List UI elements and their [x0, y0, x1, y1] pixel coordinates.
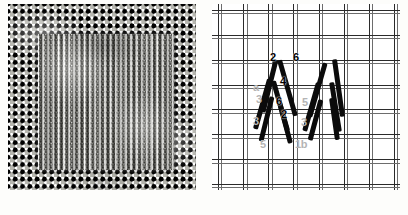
stitch-number-label: a: [253, 82, 259, 93]
stitch-working-diagram: 26462a335351b: [212, 4, 400, 190]
grid-thread-horizontal: [212, 134, 400, 135]
grid-thread-horizontal: [212, 109, 400, 110]
stitch-number-label: 3: [256, 94, 262, 105]
stitch-number-label: 5: [302, 97, 308, 108]
stitch-number-label: 6: [276, 96, 282, 107]
grid-thread-horizontal: [212, 63, 400, 64]
embroidered-canvas-photograph: [8, 4, 196, 190]
stitch-number-label: 3: [253, 116, 259, 127]
grid-thread-horizontal: [212, 35, 400, 36]
grid-thread-horizontal: [212, 88, 400, 89]
stitch-number-label: 3: [301, 117, 307, 128]
grid-thread-horizontal: [212, 85, 400, 86]
grid-thread-horizontal: [212, 187, 400, 188]
grid-thread-horizontal: [212, 163, 400, 164]
worked-block-shading: [38, 34, 174, 170]
stitch-number-label: 4: [280, 76, 286, 87]
grid-thread-horizontal: [212, 184, 400, 185]
grid-thread-horizontal: [212, 10, 400, 11]
grid-thread-horizontal: [212, 38, 400, 39]
needlework-figure-plate: 26462a335351b: [0, 0, 408, 215]
grid-thread-horizontal: [212, 159, 400, 160]
stitch-number-label: 2: [281, 109, 287, 120]
worked-stitch-block: [38, 34, 174, 170]
grid-thread-horizontal: [212, 13, 400, 14]
stitch-number-label: 2: [270, 52, 276, 63]
grid-thread-horizontal: [212, 60, 400, 61]
stitch-number-label: 6: [293, 52, 299, 63]
stitch-number-label: 5: [260, 139, 266, 150]
stitch-number-label: 1b: [295, 139, 307, 150]
